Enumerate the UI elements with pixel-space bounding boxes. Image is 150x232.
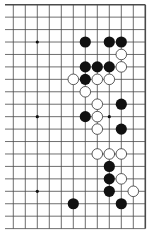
black-stone[interactable] [104,173,115,184]
white-stone[interactable] [92,124,103,135]
white-stone[interactable] [116,62,127,73]
white-stone[interactable] [128,186,139,197]
white-stone[interactable] [92,149,103,160]
black-stone[interactable] [92,61,103,72]
white-stone[interactable] [104,74,115,85]
black-stone[interactable] [116,36,127,47]
black-stone[interactable] [116,198,127,209]
star-point [108,115,111,118]
black-stone[interactable] [116,124,127,135]
black-stone[interactable] [80,61,91,72]
star-point [36,190,39,193]
white-stone[interactable] [116,174,127,185]
black-stone[interactable] [104,36,115,47]
black-stone[interactable] [80,36,91,47]
black-stone[interactable] [104,186,115,197]
black-stone[interactable] [104,61,115,72]
black-stone[interactable] [68,198,79,209]
white-stone[interactable] [68,74,79,85]
star-point [36,40,39,43]
stones [68,36,139,209]
white-stone[interactable] [116,49,127,60]
white-stone[interactable] [116,149,127,160]
go-board[interactable] [0,0,150,232]
black-stone[interactable] [80,111,91,122]
black-stone[interactable] [80,74,91,85]
white-stone[interactable] [92,74,103,85]
black-stone[interactable] [116,99,127,110]
white-stone[interactable] [80,86,91,97]
white-stone[interactable] [104,149,115,160]
white-stone[interactable] [92,111,103,122]
white-stone[interactable] [92,99,103,110]
star-point [36,115,39,118]
black-stone[interactable] [104,161,115,172]
